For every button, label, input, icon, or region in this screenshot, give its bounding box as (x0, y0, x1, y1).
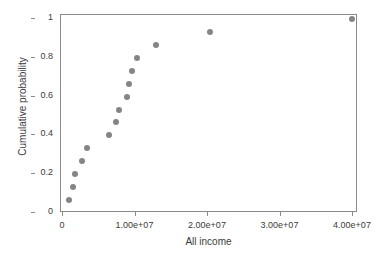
y-axis-tick-label: 0 (13, 207, 53, 216)
data-point (126, 81, 132, 87)
data-point (79, 158, 85, 164)
x-axis-tick-label: 3.00e+07 (245, 220, 315, 230)
data-point (116, 107, 122, 113)
x-axis-tick-label: 0 (27, 220, 97, 230)
x-axis-tick (135, 212, 136, 216)
data-point (84, 145, 90, 151)
x-axis-tick-label: 1.00e+07 (100, 220, 170, 230)
x-axis-tick (280, 212, 281, 216)
scatter-chart-figure: 00.20.40.60.81 01.00e+072.00e+073.00e+07… (0, 0, 392, 266)
plot-area (60, 14, 357, 212)
data-point (113, 119, 119, 125)
y-axis-title: Cumulative probability (17, 8, 28, 206)
x-axis-tick (352, 212, 353, 216)
data-point (70, 184, 76, 190)
data-point (153, 42, 159, 48)
data-point (134, 55, 140, 61)
x-axis-tick-label: 4.00e+07 (317, 220, 387, 230)
x-axis-tick (207, 212, 208, 216)
data-point (72, 171, 78, 177)
x-axis-tick-label: 2.00e+07 (172, 220, 242, 230)
data-point (124, 94, 130, 100)
data-point (106, 132, 112, 138)
x-axis-tick (62, 212, 63, 216)
data-point (207, 29, 213, 35)
data-point (349, 16, 355, 22)
data-point (66, 197, 72, 203)
x-axis-title: All income (60, 236, 357, 247)
data-point (129, 68, 135, 74)
